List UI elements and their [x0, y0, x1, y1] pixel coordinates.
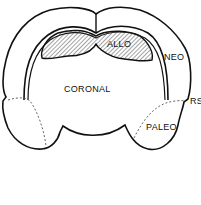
label-neo: NEO: [164, 53, 184, 62]
label-coronal: CORONAL: [64, 85, 111, 94]
label-rs: RS: [190, 97, 201, 106]
coronal-brain-diagram: [0, 0, 201, 205]
label-allo: ALLO: [107, 40, 131, 49]
label-paleo: PALEO: [146, 123, 177, 132]
